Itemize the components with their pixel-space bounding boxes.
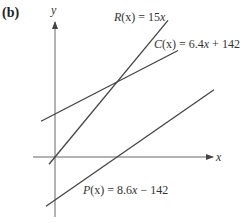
cost-line <box>41 51 178 122</box>
revenue-label: R(x) = 15x <box>113 10 166 24</box>
panel-label: (b) <box>2 5 19 21</box>
revenue-line <box>49 20 168 164</box>
graph: (b) x y R(x) = 15x C(x) = 6.4x + 142 P(x… <box>0 0 240 223</box>
y-axis-label: y <box>50 3 57 17</box>
cost-label: C(x) = 6.4x + 142 <box>154 37 240 51</box>
profit-label: P(x) = 8.6x − 142 <box>82 183 168 197</box>
x-axis-label: x <box>215 150 222 164</box>
